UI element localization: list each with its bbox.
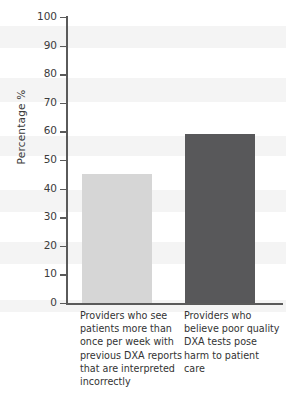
- y-tick-label: 50: [44, 153, 57, 165]
- y-tick-label: 70: [44, 96, 57, 108]
- y-tick-label: 90: [44, 39, 57, 51]
- y-tick-label: 10: [44, 267, 57, 279]
- y-tick-label: 0: [50, 296, 57, 308]
- y-tick-label: 20: [44, 239, 57, 251]
- y-tick-label: 60: [44, 124, 57, 136]
- y-tick-label: 100: [37, 10, 57, 22]
- bar-chart-figure: Percentage % 1009080706050403020100 Prov…: [0, 0, 286, 394]
- bar: [185, 134, 255, 303]
- x-axis-category-label: Providers who believe poor quality DXA t…: [184, 309, 282, 375]
- x-axis-line: [66, 303, 283, 305]
- plot-area: [66, 17, 283, 303]
- y-tick-label: 80: [44, 67, 57, 79]
- y-axis-label: Percentage %: [15, 67, 27, 187]
- y-tick-label: 30: [44, 210, 57, 222]
- bar: [82, 174, 152, 303]
- x-axis-category-label: Providers who see patients more than onc…: [80, 309, 184, 388]
- y-tick-label: 40: [44, 182, 57, 194]
- y-tick-mark: [60, 303, 66, 304]
